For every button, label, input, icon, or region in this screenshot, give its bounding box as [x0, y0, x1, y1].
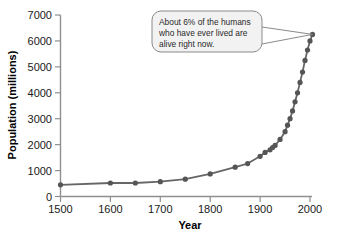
data-point	[292, 99, 297, 104]
y-tick-label: 1000	[28, 165, 52, 177]
data-point	[233, 165, 238, 170]
data-point	[272, 143, 277, 148]
x-tick-label: 2000	[298, 203, 322, 215]
data-point	[287, 116, 292, 121]
data-point	[262, 150, 267, 155]
data-point-markers	[58, 32, 315, 188]
y-tick-label: 0	[46, 191, 52, 203]
y-tick-label: 2000	[28, 139, 52, 151]
data-point	[258, 154, 263, 159]
data-point	[300, 69, 305, 74]
chart-svg: 01000200030004000500060007000 1500160017…	[0, 0, 337, 246]
x-axis-tick-labels: 150016001700180019002000	[48, 203, 322, 215]
callout-leader-line	[262, 27, 313, 44]
data-point	[245, 161, 250, 166]
callout-line-3: alive right now.	[159, 39, 214, 49]
data-point	[290, 108, 295, 113]
data-point	[285, 123, 290, 128]
data-point	[305, 47, 310, 52]
x-tick-label: 1800	[198, 203, 222, 215]
data-point	[58, 182, 63, 187]
x-tick-label: 1600	[98, 203, 122, 215]
y-tick-label: 6000	[28, 35, 52, 47]
y-axis-ticks	[55, 15, 61, 197]
data-line-series	[61, 34, 313, 184]
y-tick-label: 3000	[28, 113, 52, 125]
data-point	[183, 177, 188, 182]
y-tick-label: 7000	[28, 9, 52, 21]
data-point	[133, 180, 138, 185]
data-point	[307, 38, 312, 43]
data-point	[277, 137, 282, 142]
data-point	[108, 180, 113, 185]
data-point	[282, 129, 287, 134]
x-axis-ticks	[61, 197, 311, 203]
x-tick-label: 1900	[248, 203, 272, 215]
callout-line-1: About 6% of the humans	[159, 17, 251, 27]
data-point	[302, 58, 307, 63]
data-point	[208, 171, 213, 176]
population-chart: 01000200030004000500060007000 1500160017…	[0, 0, 337, 246]
y-axis-tick-labels: 01000200030004000500060007000	[28, 9, 52, 203]
data-point	[158, 179, 163, 184]
y-tick-label: 5000	[28, 61, 52, 73]
data-point	[297, 80, 302, 85]
y-axis-title: Population (millions)	[6, 50, 18, 159]
callout-line-2: who have ever lived are	[158, 28, 248, 38]
x-tick-label: 1500	[48, 203, 72, 215]
x-tick-label: 1700	[148, 203, 172, 215]
y-tick-label: 4000	[28, 87, 52, 99]
data-point	[295, 90, 300, 95]
x-axis-title: Year	[178, 219, 202, 231]
